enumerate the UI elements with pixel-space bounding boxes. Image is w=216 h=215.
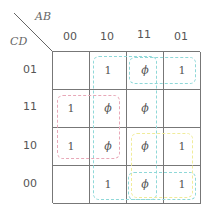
kmap-cell (53, 166, 90, 204)
header-diagonal-divider (0, 0, 60, 55)
group-row01-cols-11-01 (129, 57, 196, 84)
group-rows-11-10-cols-00-10 (57, 95, 120, 159)
row-variable-label: CD (10, 35, 27, 48)
kmap-cell (53, 52, 90, 90)
col-header: 11 (129, 28, 159, 41)
row-header: 10 (15, 139, 45, 152)
row-header: 11 (15, 100, 45, 113)
col-header: 01 (166, 30, 196, 43)
col-header: 00 (55, 30, 85, 43)
kmap-cell (164, 90, 201, 128)
row-header: 01 (15, 63, 45, 76)
col-header: 10 (92, 30, 122, 43)
row-header: 00 (15, 177, 45, 190)
col-variable-label: AB (35, 10, 51, 23)
group-row00-cols-11-01 (128, 172, 196, 200)
